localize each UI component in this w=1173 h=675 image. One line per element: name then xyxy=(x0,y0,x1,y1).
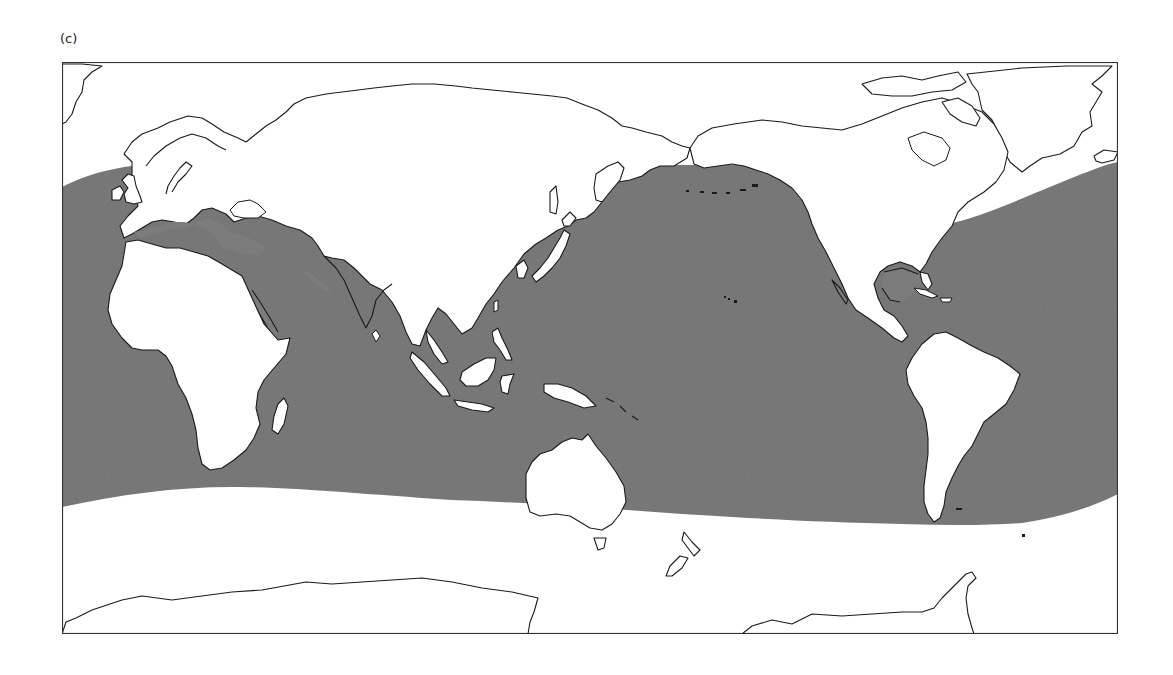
hispaniola xyxy=(940,298,952,302)
world-map xyxy=(62,62,1118,634)
antarctica-east xyxy=(742,572,976,634)
taiwan xyxy=(494,300,498,312)
south-georgia xyxy=(1022,534,1025,537)
panel-label: (c) xyxy=(60,31,77,46)
new-zealand-south xyxy=(666,556,688,576)
falkland-islands xyxy=(956,508,962,510)
greenland-west-fragment xyxy=(62,64,102,124)
tasmania xyxy=(594,538,606,550)
sakhalin xyxy=(550,186,558,214)
iceland xyxy=(1094,150,1118,163)
antarctica-west xyxy=(62,578,538,634)
new-zealand-north xyxy=(682,532,700,556)
canadian-arctic-islands xyxy=(862,72,966,96)
